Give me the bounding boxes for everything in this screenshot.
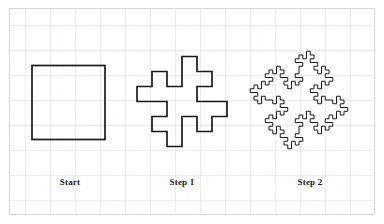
panel-label-step2: Step 2 (298, 177, 323, 187)
step2-koch-island (250, 51, 348, 149)
fractal-figure: Start Step 1 Step 2 (0, 0, 384, 224)
panel-label-step1: Step 1 (170, 177, 195, 187)
step1-koch-island (137, 57, 227, 147)
panel-label-start: Start (60, 177, 81, 187)
start-square (32, 66, 105, 140)
fractal-artwork (0, 0, 384, 224)
